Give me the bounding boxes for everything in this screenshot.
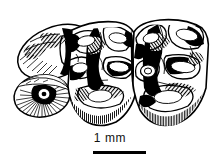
anterior-molar-crown bbox=[68, 22, 137, 126]
specimen-illustration bbox=[0, 0, 220, 138]
figure-root: 1 mm bbox=[0, 0, 220, 167]
scale-bar: 1 mm bbox=[0, 131, 220, 167]
accessory-cusp-ring bbox=[141, 65, 156, 77]
scale-bar-line bbox=[93, 151, 146, 154]
scale-bar-label: 1 mm bbox=[0, 131, 220, 145]
